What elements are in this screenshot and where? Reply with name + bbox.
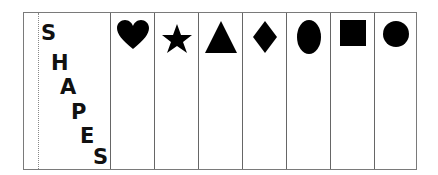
shapes-chart: S H A P E S (23, 12, 417, 170)
dotted-margin-line (38, 13, 39, 169)
title-letter: S (93, 147, 108, 168)
circle-icon (382, 20, 410, 48)
heart-icon (116, 20, 150, 50)
column-diamond (243, 13, 287, 169)
square-icon (339, 19, 367, 47)
title-letter: P (71, 102, 86, 123)
column-heart (111, 13, 155, 169)
diamond-icon (252, 20, 278, 54)
title-letter: S (41, 23, 56, 44)
star-icon (161, 23, 193, 55)
title-letter: A (60, 77, 76, 98)
column-triangle (199, 13, 243, 169)
column-oval (287, 13, 331, 169)
column-square (331, 13, 375, 169)
oval-icon (296, 19, 322, 55)
triangle-icon (204, 20, 238, 54)
column-circle (375, 13, 417, 169)
title-column: S H A P E S (24, 13, 111, 169)
title-letter: H (51, 53, 69, 74)
title-letter: E (80, 126, 94, 147)
column-star (155, 13, 199, 169)
